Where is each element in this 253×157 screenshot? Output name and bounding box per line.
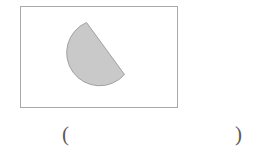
figure-frame [20, 6, 178, 108]
answer-field: ( ) [62, 121, 242, 147]
shape-figure [21, 7, 179, 109]
semicircle-shape [67, 23, 125, 86]
open-paren: ( [62, 124, 69, 145]
page-canvas: ( ) [0, 0, 253, 157]
answer-input[interactable] [69, 125, 235, 143]
close-paren: ) [235, 124, 242, 145]
